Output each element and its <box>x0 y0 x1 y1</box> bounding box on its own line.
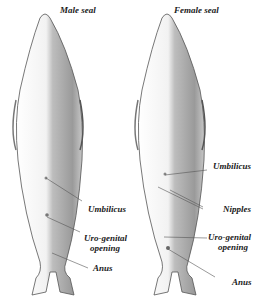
seal-anatomy-figure: Male seal Female seal Umbilicus Uro-geni… <box>0 0 254 301</box>
female-seal-title: Female seal <box>174 6 219 15</box>
female-seal-drawing <box>135 14 215 295</box>
female-urogenital-label-line1: Uro-genital <box>208 233 251 242</box>
female-umbilicus-label: Umbilicus <box>213 162 251 171</box>
male-anus-label: Anus <box>93 264 113 273</box>
female-nipples-label: Nipples <box>223 205 251 214</box>
male-umbilicus-label: Umbilicus <box>88 205 126 214</box>
female-anus-label: Anus <box>232 278 252 287</box>
female-urogenital-label-line2: opening <box>218 243 248 252</box>
male-seal-drawing <box>13 14 88 295</box>
seal-illustrations <box>0 0 254 301</box>
male-urogenital-label-line1: Uro-genital <box>84 234 127 243</box>
male-seal-title: Male seal <box>60 6 96 15</box>
male-urogenital-label-line2: opening <box>90 244 120 253</box>
